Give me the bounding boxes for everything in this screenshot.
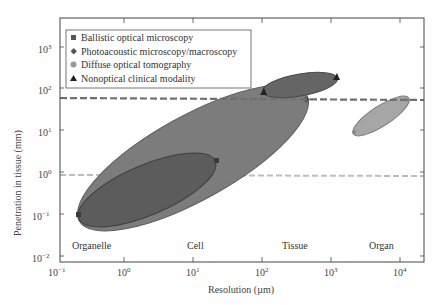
legend-item-ballistic: Ballistic optical microscopy: [81, 32, 193, 43]
svg-text:101: 101: [38, 126, 52, 138]
svg-text:104: 104: [393, 266, 407, 278]
series-dot: [348, 90, 414, 143]
svg-text:101: 101: [186, 266, 200, 278]
circle-icon: [71, 62, 77, 68]
region-label-organelle: Organelle: [72, 240, 112, 251]
reference-line-dark: [60, 98, 424, 100]
svg-text:10−2: 10−2: [32, 252, 50, 264]
svg-text:10−1: 10−1: [48, 266, 66, 278]
x-tick-labels: 10−1 100 101 102 103 104: [48, 266, 407, 278]
region-label-organ: Organ: [369, 240, 394, 251]
legend-item-nonoptical: Nonoptical clinical modality: [81, 73, 195, 84]
svg-text:100: 100: [117, 266, 131, 278]
chart-canvas: 10−1 100 101 102 103 104 10−2 10−1 100 1…: [0, 0, 445, 305]
square-marker-start: [76, 212, 81, 217]
circle-marker-start: [352, 130, 356, 134]
svg-text:103: 103: [38, 43, 52, 55]
legend-item-photoacoustic: Photoacoustic microscopy/macroscopy: [81, 46, 237, 57]
region-label-cell: Cell: [187, 240, 204, 251]
svg-text:102: 102: [38, 84, 52, 96]
svg-text:103: 103: [324, 266, 338, 278]
region-label-tissue: Tissue: [282, 240, 308, 251]
x-axis-title: Resolution (µm): [208, 284, 274, 296]
square-marker-end: [214, 158, 219, 163]
square-icon: [71, 35, 76, 40]
y-tick-labels: 10−2 10−1 100 101 102 103: [32, 43, 52, 264]
svg-text:102: 102: [255, 266, 269, 278]
svg-text:10−1: 10−1: [32, 210, 50, 222]
legend: Ballistic optical microscopy Photoacoust…: [66, 30, 251, 88]
svg-text:100: 100: [38, 168, 52, 180]
legend-item-dot: Diffuse optical tomography: [81, 59, 191, 70]
y-axis-title: Penetration in tissue (mm): [12, 130, 24, 236]
